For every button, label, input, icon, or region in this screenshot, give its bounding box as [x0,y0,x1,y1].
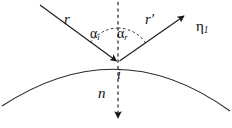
reflected-ray-label: r' [145,12,154,27]
eta-subscript: 1 [204,25,209,35]
angle-reflection-label: αr [117,27,128,42]
incident-ray-label: r [64,12,70,27]
medium-label: η1 [196,19,209,35]
incidence-point-label: i [117,68,121,82]
alpha-incidence-subscript: i [97,32,99,42]
normal-label: n [98,86,106,101]
interface-curve [2,69,230,111]
eta-symbol: η [196,18,204,34]
incident-ray-line [40,5,117,61]
reflection-diagram: r r' η1 αi αr i n [0,0,232,128]
alpha-reflection-subscript: r [124,32,127,42]
angle-incidence-label: αi [90,27,100,42]
